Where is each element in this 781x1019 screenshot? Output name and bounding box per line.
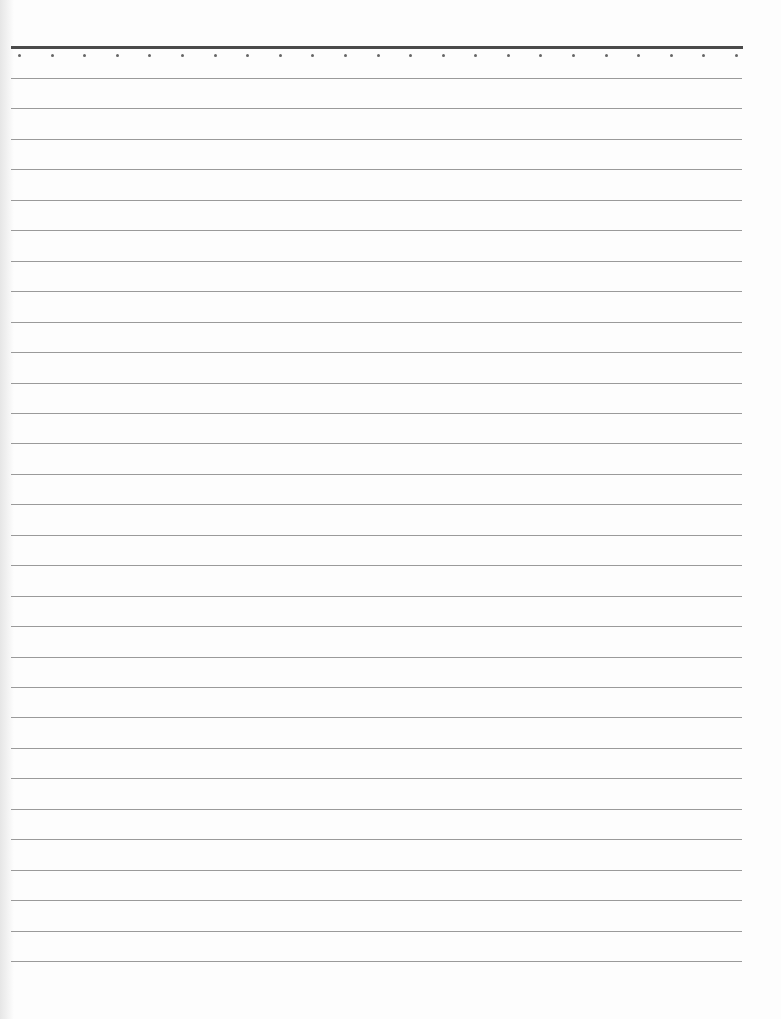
ruled-line bbox=[11, 687, 742, 688]
ruled-line bbox=[11, 322, 742, 323]
dot-marker bbox=[735, 54, 738, 57]
dot-marker bbox=[539, 54, 542, 57]
page-edge-shadow bbox=[0, 0, 14, 1019]
dot-marker bbox=[246, 54, 249, 57]
ruled-line bbox=[11, 504, 742, 505]
ruled-line bbox=[11, 230, 742, 231]
ruled-line bbox=[11, 626, 742, 627]
dot-marker bbox=[702, 54, 705, 57]
ruled-line bbox=[11, 778, 742, 779]
dot-marker bbox=[116, 54, 119, 57]
ruled-line bbox=[11, 108, 742, 109]
ruled-line bbox=[11, 900, 742, 901]
dot-marker bbox=[279, 54, 282, 57]
dot-marker bbox=[18, 54, 21, 57]
dot-marker bbox=[670, 54, 673, 57]
ruled-line bbox=[11, 383, 742, 384]
dot-marker bbox=[344, 54, 347, 57]
dot-marker bbox=[637, 54, 640, 57]
ruled-line bbox=[11, 169, 742, 170]
ruled-line bbox=[11, 200, 742, 201]
dot-marker bbox=[51, 54, 54, 57]
dot-marker bbox=[605, 54, 608, 57]
ruled-line bbox=[11, 870, 742, 871]
ruled-line bbox=[11, 565, 742, 566]
header-rule bbox=[11, 46, 743, 49]
dot-marker bbox=[311, 54, 314, 57]
dot-marker bbox=[409, 54, 412, 57]
dot-marker bbox=[181, 54, 184, 57]
dot-marker bbox=[148, 54, 151, 57]
ruled-line bbox=[11, 748, 742, 749]
ruled-line bbox=[11, 809, 742, 810]
ruled-line bbox=[11, 413, 742, 414]
ruled-line bbox=[11, 931, 742, 932]
ruled-line bbox=[11, 352, 742, 353]
dot-marker bbox=[377, 54, 380, 57]
lined-paper-page bbox=[0, 0, 781, 1019]
dot-marker bbox=[474, 54, 477, 57]
ruled-line bbox=[11, 657, 742, 658]
ruled-line bbox=[11, 291, 742, 292]
ruled-line bbox=[11, 78, 742, 79]
ruled-line bbox=[11, 474, 742, 475]
dot-marker bbox=[83, 54, 86, 57]
dot-marker bbox=[507, 54, 510, 57]
dot-marker bbox=[572, 54, 575, 57]
ruled-line bbox=[11, 717, 742, 718]
ruled-line bbox=[11, 839, 742, 840]
ruled-line bbox=[11, 961, 742, 962]
dot-marker bbox=[214, 54, 217, 57]
dot-marker bbox=[442, 54, 445, 57]
ruled-line bbox=[11, 535, 742, 536]
ruled-line bbox=[11, 139, 742, 140]
ruled-line bbox=[11, 261, 742, 262]
ruled-line bbox=[11, 443, 742, 444]
ruled-line bbox=[11, 596, 742, 597]
